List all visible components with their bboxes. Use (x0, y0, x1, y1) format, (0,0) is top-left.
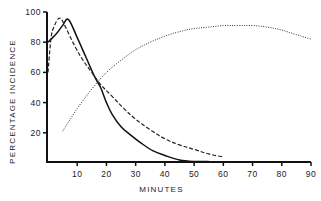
series-line-solid (48, 19, 209, 162)
y-tick-label: 100 (25, 7, 41, 17)
x-tick-label: 70 (247, 169, 257, 179)
x-tick-label: 20 (101, 169, 111, 179)
y-tick-label: 20 (31, 128, 41, 138)
x-tick-label: 60 (218, 169, 228, 179)
x-ticks: 102030405060708090 (72, 162, 316, 179)
y-ticks: 20406080100 (25, 7, 47, 138)
series-line-dotted (63, 25, 311, 131)
y-axis-title: PERCENTAGE INCIDENCE (8, 39, 17, 164)
line-chart: 20406080100 102030405060708090 MINUTES P… (0, 0, 321, 201)
y-tick-label: 40 (31, 98, 41, 108)
y-tick-label: 80 (31, 37, 41, 47)
x-tick-label: 30 (130, 169, 140, 179)
x-tick-label: 90 (306, 169, 316, 179)
x-tick-label: 50 (189, 169, 199, 179)
series-layer (48, 18, 311, 162)
x-tick-label: 80 (277, 169, 287, 179)
series-line-dashed (48, 18, 223, 157)
x-tick-label: 40 (160, 169, 170, 179)
x-tick-label: 10 (72, 169, 82, 179)
y-tick-label: 60 (31, 67, 41, 77)
x-axis-title: MINUTES (139, 185, 183, 194)
